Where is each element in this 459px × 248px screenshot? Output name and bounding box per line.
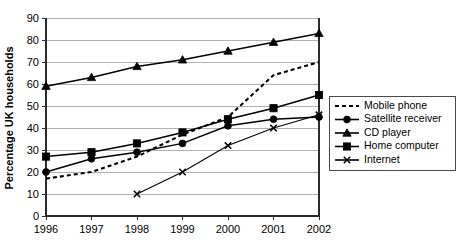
data-point-marker bbox=[43, 169, 50, 176]
y-tick-label: 60 bbox=[27, 78, 39, 90]
data-point-marker bbox=[133, 140, 140, 147]
x-tick-label: 1997 bbox=[79, 223, 103, 235]
data-point-marker bbox=[134, 149, 141, 156]
data-point-marker bbox=[88, 155, 95, 162]
x-tick-label: 2000 bbox=[216, 223, 240, 235]
series-line bbox=[46, 62, 319, 179]
data-point-marker bbox=[315, 91, 322, 98]
y-tick-label: 70 bbox=[27, 56, 39, 68]
legend-item-label: Home computer bbox=[364, 139, 439, 151]
y-tick-label: 20 bbox=[27, 166, 39, 178]
gridlines bbox=[46, 18, 319, 194]
legend-item-label: Satellite receiver bbox=[364, 112, 442, 124]
data-point-marker bbox=[225, 142, 231, 148]
y-axis-ticks: 0102030405060708090 bbox=[27, 12, 46, 222]
y-axis-title: Percentage UK households bbox=[3, 46, 15, 189]
y-tick-label: 0 bbox=[33, 210, 39, 222]
y-tick-label: 50 bbox=[27, 100, 39, 112]
legend-swatch-marker bbox=[343, 143, 350, 150]
y-axis-title-group: Percentage UK households bbox=[3, 46, 15, 189]
data-point-marker bbox=[270, 105, 277, 112]
legend-item-label: Internet bbox=[364, 153, 400, 165]
x-tick-label: 1998 bbox=[125, 223, 149, 235]
y-tick-label: 80 bbox=[27, 34, 39, 46]
series-line bbox=[46, 95, 319, 157]
y-tick-label: 90 bbox=[27, 12, 39, 24]
y-tick-label: 10 bbox=[27, 188, 39, 200]
x-tick-label: 1996 bbox=[34, 223, 58, 235]
legend-swatch-marker bbox=[344, 116, 351, 123]
x-tick-label: 1999 bbox=[170, 223, 194, 235]
data-point-marker bbox=[42, 153, 49, 160]
y-tick-label: 30 bbox=[27, 144, 39, 156]
series-cd-player bbox=[42, 29, 323, 89]
line-chart: Percentage UK households 010203040506070… bbox=[0, 0, 459, 248]
data-point-marker bbox=[179, 140, 186, 147]
y-tick-label: 40 bbox=[27, 122, 39, 134]
legend-item-label: CD player bbox=[364, 126, 411, 138]
x-tick-label: 2002 bbox=[307, 223, 331, 235]
legend-item-label: Mobile phone bbox=[364, 99, 427, 111]
data-point-marker bbox=[225, 122, 232, 129]
x-axis-ticks: 1996199719981999200020012002 bbox=[34, 216, 331, 235]
series-satellite-receiver bbox=[43, 114, 323, 176]
axis-lines-left-bottom bbox=[46, 18, 319, 216]
series-mobile-phone bbox=[46, 62, 319, 179]
data-point-marker bbox=[179, 129, 186, 136]
x-tick-label: 2001 bbox=[261, 223, 285, 235]
chart-container: Percentage UK households 010203040506070… bbox=[0, 0, 459, 248]
axis-lines bbox=[46, 18, 319, 216]
data-point-marker bbox=[270, 116, 277, 123]
data-point-marker bbox=[88, 149, 95, 156]
data-point-marker bbox=[224, 116, 231, 123]
chart-legend: Mobile phoneSatellite receiverCD playerH… bbox=[329, 96, 455, 170]
data-point-marker bbox=[315, 29, 323, 36]
